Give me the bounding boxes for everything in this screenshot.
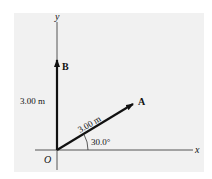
angle-label: 30.0° (91, 137, 111, 147)
x-axis-label: x (194, 144, 200, 155)
angle-arc (84, 135, 88, 151)
origin-label: O (44, 154, 51, 165)
vector-b-label: B (62, 61, 69, 72)
vector-a-label: A (138, 96, 146, 107)
vector-b-magnitude: 3.00 m (20, 96, 45, 106)
vector-diagram: y x O B 3.00 m A 3.00 m 30.0° (0, 0, 212, 179)
y-axis-label: y (54, 11, 60, 22)
